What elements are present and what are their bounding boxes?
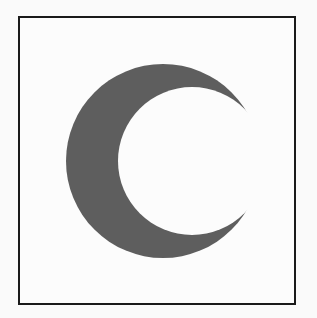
crescent-icon bbox=[0, 0, 317, 318]
